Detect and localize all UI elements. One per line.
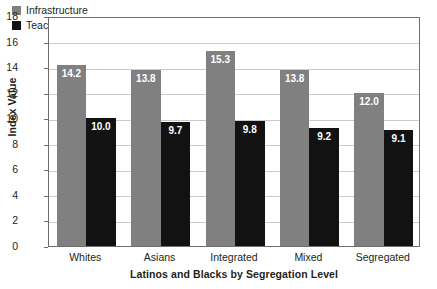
x-axis-title: Latinos and Blacks by Segregation Level [48,268,420,280]
y-tick-label: 16 [0,37,18,48]
bar-value-label: 13.8 [131,73,161,84]
bar-infrastructure-asians: 13.8 [131,70,161,246]
y-tick-mark [44,247,48,248]
bar-value-label: 15.3 [206,54,236,65]
y-tick-label: 18 [0,11,18,22]
bar-infrastructure-whites: 14.2 [57,65,87,246]
bar-teaching-whites: 10.0 [86,118,116,246]
bar-value-label: 9.7 [161,125,191,136]
bar-infrastructure-mixed: 13.8 [280,70,310,246]
bar-infrastructure-integrated: 15.3 [206,51,236,247]
gridline [49,43,419,44]
bar-infrastructure-segregated: 12.0 [354,93,384,246]
bar-value-label: 10.0 [86,121,116,132]
bar-value-label: 9.8 [235,124,265,135]
bar-teaching-segregated: 9.1 [384,130,414,246]
y-tick-label: 4 [0,190,18,201]
bar-value-label: 14.2 [57,68,87,79]
bar-teaching-integrated: 9.8 [235,121,265,246]
y-axis-title: Index Value [6,57,18,157]
bar-value-label: 12.0 [354,96,384,107]
bar-value-label: 9.1 [384,133,414,144]
y-tick-label: 0 [0,241,18,252]
bar-chart-figure: Infrastructure Teaching 024681012141618 … [0,0,437,289]
plot-area: 14.210.013.89.715.39.813.89.212.09.1 [48,17,420,247]
x-tick-label-segregated: Segregated [338,252,428,263]
bar-teaching-asians: 9.7 [161,122,191,246]
bar-teaching-mixed: 9.2 [309,128,339,246]
y-tick-label: 2 [0,215,18,226]
y-tick-label: 6 [0,164,18,175]
bar-value-label: 13.8 [280,73,310,84]
bar-value-label: 9.2 [309,131,339,142]
